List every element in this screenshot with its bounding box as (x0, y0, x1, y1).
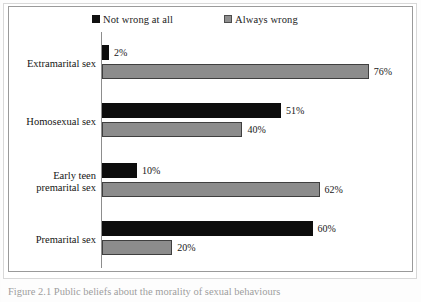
bar-not-wrong-at-all[interactable] (102, 221, 313, 236)
bar-row[interactable]: 62% (102, 182, 343, 197)
bar-not-wrong-at-all[interactable] (102, 45, 109, 60)
bar-row[interactable]: 40% (102, 122, 266, 137)
bar-not-wrong-at-all[interactable] (102, 163, 137, 178)
category-label: Premarital sex (8, 234, 96, 246)
bar-row[interactable]: 20% (102, 240, 196, 255)
legend-entry-always-wrong: Always wrong (224, 14, 298, 25)
category-label: Early teenpremarital sex (8, 170, 96, 193)
category-label-line: premarital sex (8, 182, 96, 194)
bar-value-label: 51% (286, 105, 304, 116)
figure-caption: Figure 2.1 Public beliefs about the mora… (8, 286, 413, 302)
bar-value-label: 76% (374, 66, 392, 77)
legend-entry-not-wrong-at-all: Not wrong at all (92, 14, 173, 25)
category-label-line: Early teen (8, 170, 96, 182)
bar-row[interactable]: 76% (102, 64, 392, 79)
bar-value-label: 20% (177, 242, 195, 253)
figure-container: Not wrong at all Always wrong Extramarit… (0, 0, 421, 302)
bar-not-wrong-at-all[interactable] (102, 103, 281, 118)
legend-label-always-wrong: Always wrong (235, 14, 298, 25)
bar-row[interactable]: 2% (102, 45, 127, 60)
bar-value-label: 2% (114, 47, 127, 58)
category-label-line: Premarital sex (8, 234, 96, 246)
chart-legend: Not wrong at all Always wrong (8, 10, 413, 28)
bar-always-wrong[interactable] (102, 122, 242, 137)
category-label: Extramarital sex (8, 58, 96, 70)
bar-always-wrong[interactable] (102, 182, 320, 197)
bar-row[interactable]: 10% (102, 163, 160, 178)
bar-value-label: 62% (325, 184, 343, 195)
plot-area: Extramarital sex2%76%Homosexual sex51%40… (8, 30, 413, 270)
bar-always-wrong[interactable] (102, 240, 172, 255)
bar-value-label: 40% (247, 124, 265, 135)
category-label: Homosexual sex (8, 116, 96, 128)
bar-always-wrong[interactable] (102, 64, 369, 79)
bar-value-label: 60% (318, 223, 336, 234)
legend-swatch-icon-not-wrong-at-all (92, 15, 100, 23)
category-label-line: Extramarital sex (8, 58, 96, 70)
legend-swatch-icon-always-wrong (224, 15, 232, 23)
legend-label-not-wrong-at-all: Not wrong at all (103, 14, 173, 25)
category-label-line: Homosexual sex (8, 116, 96, 128)
bar-value-label: 10% (142, 165, 160, 176)
bar-row[interactable]: 51% (102, 103, 304, 118)
bar-row[interactable]: 60% (102, 221, 336, 236)
